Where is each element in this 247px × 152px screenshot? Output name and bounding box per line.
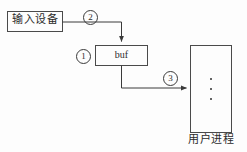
ellipsis-dot: [210, 88, 212, 90]
ellipsis-dot: [210, 78, 212, 80]
label-input-device: 输入设备: [7, 14, 63, 25]
connector-input-device-to-buffer: [63, 22, 122, 42]
step-marker-3: 3: [163, 71, 178, 86]
label-buffer: buf: [95, 50, 148, 60]
step-marker-1: 1: [76, 49, 91, 64]
label-user-process: 用户进程: [185, 134, 237, 145]
diagram-canvas: 输入设备 buf 用户进程 1 2 3: [0, 0, 247, 152]
step-marker-2: 2: [83, 10, 98, 25]
ellipsis-dot: [210, 98, 212, 100]
vertical-ellipsis-icon: [205, 78, 217, 100]
